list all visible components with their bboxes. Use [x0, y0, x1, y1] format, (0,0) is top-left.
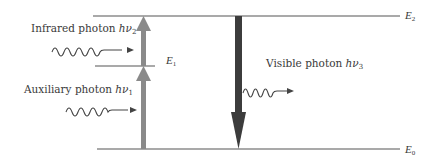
- level-label-e0: E0: [405, 144, 415, 157]
- photon-label-text: Auxiliary photon: [24, 83, 115, 95]
- photon-energy-symbol: hν: [119, 22, 132, 34]
- arrow-down-visible-icon: [231, 16, 246, 149]
- infrared-photon-wave-icon: [52, 47, 134, 56]
- level-subscript: 2: [412, 15, 416, 23]
- photon-energy-symbol: hν: [115, 83, 128, 95]
- photon-energy-subscript: 3: [359, 63, 363, 71]
- photon-energy-symbol: hν: [346, 57, 359, 69]
- arrow-up-auxiliary-icon: [136, 66, 151, 149]
- level-label-e1: E1: [166, 55, 176, 68]
- photon-energy-subscript: 1: [129, 89, 133, 97]
- energy-level-diagram: E2 E1 E0 Infrared photon hν2 Auxiliary p…: [0, 0, 432, 164]
- visible-photon-label: Visible photon hν3: [266, 58, 363, 71]
- photon-label-text: Visible photon: [266, 57, 346, 69]
- level-label-e2: E2: [405, 10, 415, 23]
- level-subscript: 0: [412, 149, 416, 157]
- level-subscript: 1: [173, 60, 177, 68]
- level-symbol: E: [166, 54, 173, 66]
- photon-energy-subscript: 2: [132, 28, 136, 36]
- photon-label-text: Infrared photon: [31, 22, 119, 34]
- auxiliary-photon-label: Auxiliary photon hν1: [24, 84, 133, 97]
- arrow-up-infrared-icon: [136, 16, 151, 66]
- visible-photon-wave-icon: [243, 88, 294, 97]
- infrared-photon-label: Infrared photon hν2: [31, 23, 136, 36]
- level-symbol: E: [405, 9, 412, 21]
- level-symbol: E: [405, 143, 412, 155]
- auxiliary-photon-wave-icon: [66, 107, 137, 116]
